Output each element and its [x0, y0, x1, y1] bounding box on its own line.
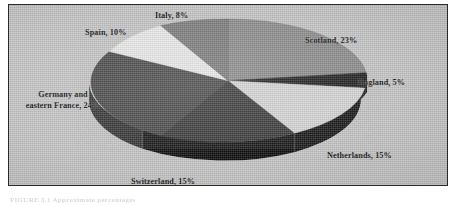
- label-spain: Spain, 10%: [85, 28, 127, 38]
- label-germany-eastern-france: Germany and eastern France, 24%: [15, 90, 111, 111]
- label-switzerland: Switzerland, 15%: [131, 177, 195, 186]
- pie-data-labels: Italy, 8% Spain, 10% Scotland, 23% Engla…: [9, 5, 447, 185]
- label-germany-line1: Germany and: [38, 90, 88, 99]
- label-netherlands: Netherlands, 15%: [327, 151, 392, 161]
- label-england: England, 5%: [358, 78, 405, 88]
- label-scotland: Scotland, 23%: [305, 36, 357, 46]
- label-germany-line2: eastern France, 24%: [26, 101, 100, 110]
- figure-caption-partial: FIGURE 5.1 Approximate percentages: [10, 196, 240, 204]
- figure-frame: Italy, 8% Spain, 10% Scotland, 23% Engla…: [8, 4, 448, 186]
- label-italy: Italy, 8%: [155, 11, 188, 21]
- figure-page: Italy, 8% Spain, 10% Scotland, 23% Engla…: [0, 0, 456, 206]
